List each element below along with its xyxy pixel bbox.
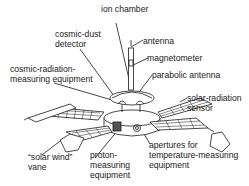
leader-cosmic-radiation — [54, 83, 112, 100]
label-apertures-line3: equipment — [149, 161, 189, 171]
label-solar-radiation-sensor-line2: sensor — [187, 104, 213, 114]
leader-solar-radiation — [180, 98, 187, 102]
leader-antenna — [131, 40, 143, 47]
label-antenna: antenna — [143, 37, 174, 47]
label-cosmic-radiation-line2: measuring equipment — [10, 75, 93, 85]
label-cosmic-dust-detector-line2: detector — [55, 40, 86, 50]
label-ion-chamber: ion chamber — [101, 5, 148, 15]
leader-parabolic-antenna — [140, 75, 152, 91]
label-parabolic-antenna: parabolic antenna — [152, 71, 220, 81]
leader-cosmic-dust — [80, 49, 114, 96]
solar-wind-vane-right — [210, 132, 230, 152]
solar-wind-vane-left — [60, 134, 84, 152]
label-solar-wind-vane-line2: vane — [28, 163, 47, 173]
label-magnetometer: magnetometer — [147, 54, 202, 64]
label-proton-measuring-line3: equipment — [90, 171, 130, 181]
spacecraft-diagram: ion chamber cosmic-dust detector antenna… — [0, 0, 249, 186]
